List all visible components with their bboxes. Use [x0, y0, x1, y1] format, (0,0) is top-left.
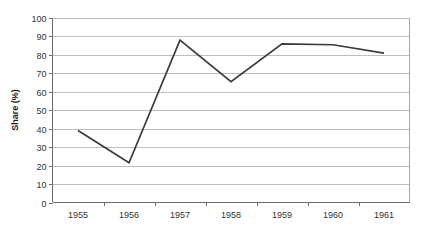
x-tick-label: 1961 [374, 210, 394, 220]
chart-background [0, 0, 423, 237]
y-tick-label: 90 [36, 32, 46, 42]
x-tick-label: 1960 [323, 210, 343, 220]
chart-canvas: 0102030405060708090100 19551956195719581… [0, 0, 423, 237]
y-tick-label: 70 [36, 69, 46, 79]
y-tick-label: 30 [36, 143, 46, 153]
y-tick-label: 100 [31, 14, 46, 24]
y-tick-label: 60 [36, 88, 46, 98]
x-tick-label: 1958 [221, 210, 241, 220]
y-tick-label: 40 [36, 125, 46, 135]
y-axis-title: Share (%) [10, 89, 20, 131]
x-tick-label: 1955 [68, 210, 88, 220]
y-tick-label: 50 [36, 106, 46, 116]
x-tick-label: 1956 [119, 210, 139, 220]
x-tick-label: 1957 [170, 210, 190, 220]
y-tick-label: 20 [36, 162, 46, 172]
line-chart: 0102030405060708090100 19551956195719581… [0, 0, 423, 237]
y-tick-label: 10 [36, 180, 46, 190]
x-tick-label: 1959 [272, 210, 292, 220]
y-tick-label: 80 [36, 51, 46, 61]
y-tick-label: 0 [41, 199, 46, 209]
y-axis-title-group: Share (%) [10, 89, 20, 131]
